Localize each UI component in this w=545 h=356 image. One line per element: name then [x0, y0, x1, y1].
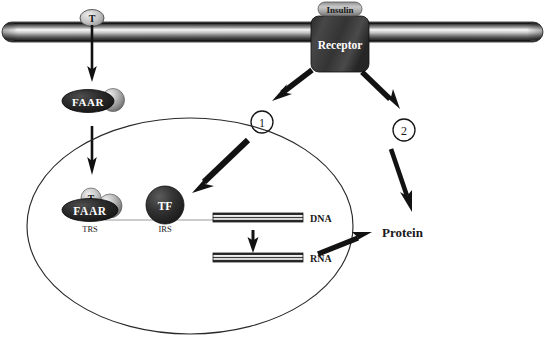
- faar-label-nucleus: FAAR: [73, 205, 107, 217]
- arrow-path2-shaft: [391, 149, 407, 196]
- receptor-label: Receptor: [318, 39, 363, 52]
- arrow-receptor-to-path2: [362, 72, 400, 109]
- transcription-factor-complex[interactable]: TF IRS: [146, 186, 184, 234]
- thyroid-ligand-label: T: [89, 13, 96, 24]
- arrow-faar-nuclear-import: [87, 126, 97, 175]
- dna-strand: DNA: [213, 213, 332, 224]
- faar-label-cytoplasm: FAAR: [72, 96, 105, 108]
- arrow-translation: [318, 232, 372, 254]
- diagram-canvas: T FAAR Receptor Insulin: [0, 0, 545, 356]
- cell-membrane: [2, 22, 543, 42]
- rna-strand: RNA: [213, 253, 332, 264]
- arrow-receptor-path2-shaft: [362, 72, 390, 99]
- insulin-ligand-label: Insulin: [326, 5, 353, 15]
- cytoplasmic-faar-complex[interactable]: FAAR: [62, 89, 125, 113]
- membrane-shading: [2, 22, 543, 42]
- protein-label: Protein: [382, 225, 424, 240]
- insulin-receptor-complex[interactable]: Receptor Insulin: [311, 2, 369, 72]
- nuclear-faar-complex[interactable]: T FAAR TRS: [62, 188, 122, 234]
- rna-bar: [213, 253, 303, 262]
- arrow-path1-shaft: [204, 140, 248, 182]
- pathway-2-label: 2: [401, 124, 407, 138]
- arrow-transcription: [248, 230, 259, 253]
- pathway-2-marker[interactable]: 2: [393, 119, 415, 141]
- thyroid-hormone-ligand[interactable]: T: [80, 10, 104, 27]
- arrow-path2-to-protein: [391, 149, 412, 212]
- dna-label: DNA: [310, 213, 332, 224]
- signaling-diagram-figure: T FAAR Receptor Insulin: [0, 0, 545, 356]
- irs-site-label: IRS: [158, 224, 172, 234]
- arrow-translation-shaft: [318, 238, 358, 254]
- nucleus-envelope: [27, 118, 353, 334]
- arrow-receptor-to-path1: [272, 70, 312, 101]
- dna-bar: [213, 213, 303, 222]
- trs-site-label: TRS: [82, 224, 98, 234]
- tf-label: TF: [158, 200, 173, 212]
- arrow-receptor-path1-shaft: [282, 70, 312, 93]
- pathway-1-label: 1: [259, 116, 265, 130]
- arrow-path1-to-nucleus: [192, 140, 248, 193]
